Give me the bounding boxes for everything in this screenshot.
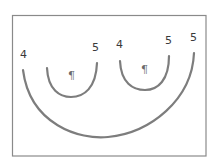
label-outer-end: 5 xyxy=(190,31,197,44)
label-inner2-end: 5 xyxy=(165,34,172,47)
nested-arc-diagram: 4 5 4 5 5 ¶ ¶ xyxy=(0,0,218,164)
pilcrow-symbol-2: ¶ xyxy=(141,63,148,76)
diagram-frame xyxy=(13,16,207,157)
label-inner2-start: 4 xyxy=(116,38,123,51)
label-outer-start: 4 xyxy=(20,48,27,61)
pilcrow-symbol-1: ¶ xyxy=(68,69,75,82)
label-inner1-end: 5 xyxy=(92,41,99,54)
